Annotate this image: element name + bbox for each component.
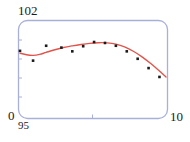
data-point-marker — [19, 50, 22, 53]
data-point-marker — [104, 42, 107, 45]
chart-container: 102 0 95 10 — [0, 0, 190, 142]
x-axis-min-label: 95 — [18, 120, 29, 131]
y-axis-max-label: 102 — [18, 4, 38, 17]
data-point-marker — [158, 76, 161, 79]
y-axis-min-label: 0 — [8, 109, 15, 122]
plot-frame — [19, 21, 168, 119]
x-axis-max-label: 10 — [170, 110, 183, 123]
data-point-marker — [45, 44, 48, 47]
data-point-marker — [93, 41, 96, 44]
data-point-marker — [125, 50, 128, 53]
data-point-marker — [32, 59, 35, 62]
data-point-marker — [71, 50, 74, 53]
data-point-marker — [115, 44, 118, 47]
data-point-marker — [136, 57, 139, 60]
data-point-marker — [147, 67, 150, 70]
data-point-marker — [82, 45, 85, 48]
data-point-marker — [60, 46, 63, 49]
